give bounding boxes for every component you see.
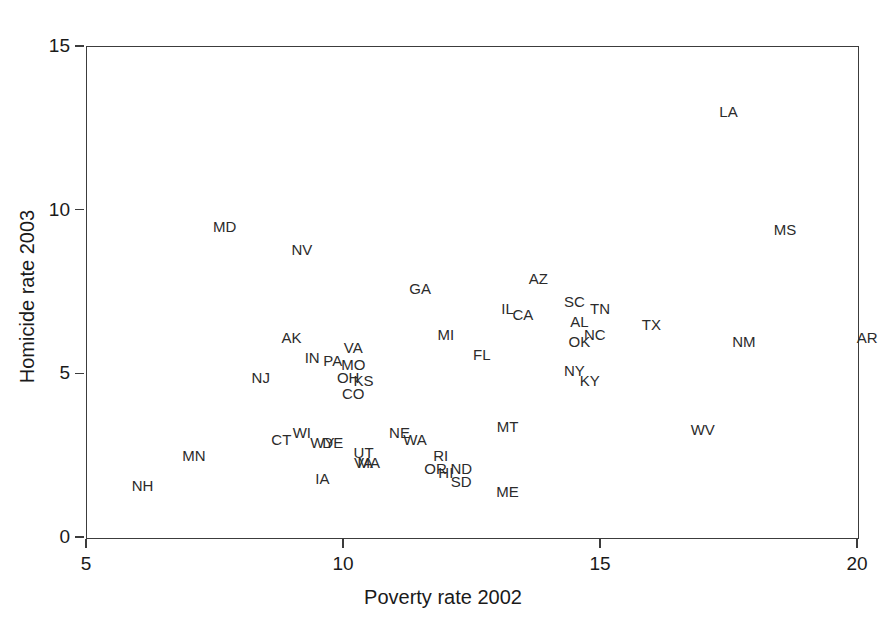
data-point-label: LA — [719, 104, 737, 119]
data-point-label: TX — [642, 317, 661, 332]
x-tick-label: 20 — [846, 553, 867, 575]
data-point-label: NV — [291, 241, 312, 256]
data-point-label: TN — [590, 300, 610, 315]
data-point-label: VA — [344, 340, 363, 355]
y-tick-mark — [75, 209, 84, 211]
x-tick-mark — [342, 539, 344, 548]
x-axis-title: Poverty rate 2002 — [0, 586, 886, 609]
y-tick-mark — [75, 536, 84, 538]
data-point-label: NH — [132, 477, 154, 492]
y-axis-title: Homicide rate 2003 — [16, 137, 39, 457]
x-tick-label: 10 — [332, 553, 353, 575]
data-point-label: ME — [496, 484, 519, 499]
data-point-label: AZ — [529, 271, 548, 286]
data-point-label: NJ — [252, 369, 270, 384]
data-point-label: MI — [437, 327, 454, 342]
y-tick-mark — [75, 45, 84, 47]
scatter-chart: 5101520 051015 LAMDMSNVAZGASCTNILCAALTXN… — [0, 0, 886, 627]
data-point-label: WA — [403, 431, 427, 446]
data-point-label: AK — [282, 330, 302, 345]
data-point-label: AR — [857, 330, 878, 345]
data-point-label: WV — [691, 421, 715, 436]
y-tick-label: 10 — [49, 199, 70, 221]
data-point-label: FL — [473, 346, 491, 361]
data-point-label: NM — [732, 333, 755, 348]
data-point-label: MN — [182, 448, 205, 463]
data-point-label: IA — [315, 471, 329, 486]
data-point-label: CT — [271, 431, 291, 446]
data-point-label: KY — [580, 372, 600, 387]
x-tick-label: 5 — [81, 553, 92, 575]
data-point-label: WI — [293, 425, 311, 440]
data-point-label: CO — [342, 385, 365, 400]
data-point-label: MD — [213, 219, 236, 234]
y-tick-label: 15 — [49, 35, 70, 57]
x-tick-mark — [856, 539, 858, 548]
y-tick-mark — [75, 373, 84, 375]
data-point-label: CA — [512, 307, 533, 322]
x-tick-mark — [599, 539, 601, 548]
data-point-label: DE — [322, 435, 343, 450]
y-tick-label: 5 — [59, 362, 70, 384]
x-tick-label: 15 — [589, 553, 610, 575]
plot-area — [86, 46, 859, 539]
data-point-label: OK — [569, 333, 591, 348]
data-point-label: MT — [497, 418, 519, 433]
data-point-label: GA — [409, 281, 431, 296]
data-point-label: SD — [451, 474, 472, 489]
data-point-label: IN — [305, 349, 320, 364]
x-tick-mark — [85, 539, 87, 548]
data-point-label: SC — [564, 294, 585, 309]
data-point-label: MA — [357, 454, 380, 469]
data-point-label: PA — [323, 353, 342, 368]
y-tick-label: 0 — [59, 526, 70, 548]
data-point-label: MS — [774, 222, 797, 237]
